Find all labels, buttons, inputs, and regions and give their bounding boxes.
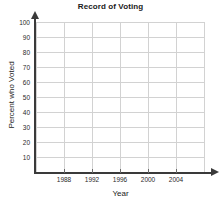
y-tick-label: 70 — [0, 64, 34, 71]
x-axis-arrow-icon — [211, 168, 219, 176]
y-tick-label: 50 — [0, 94, 34, 101]
y-axis-tick-labels: 100 90 80 70 60 50 40 30 20 10 — [0, 0, 34, 205]
gridline-vertical — [64, 22, 65, 172]
y-axis-title: Percent who Voted — [7, 25, 17, 165]
gridline-vertical — [120, 22, 121, 172]
gridline-vertical — [92, 22, 93, 172]
x-tick-mark — [92, 169, 93, 173]
chart-screenshot: Record of Voting 100 90 80 70 60 50 40 3… — [0, 0, 221, 205]
gridline-vertical — [204, 22, 205, 172]
y-tick-label: 60 — [0, 79, 34, 86]
y-tick-label: 80 — [0, 49, 34, 56]
y-tick-label: 10 — [0, 154, 34, 161]
gridline-vertical — [148, 22, 149, 172]
x-tick-mark — [176, 169, 177, 173]
x-tick-mark — [148, 169, 149, 173]
x-tick-label: 2004 — [156, 176, 196, 184]
y-tick-label: 100 — [0, 19, 34, 26]
x-axis-title: Year — [36, 189, 205, 199]
y-tick-label: 20 — [0, 139, 34, 146]
y-tick-label: 40 — [0, 109, 34, 116]
plot-area — [36, 22, 205, 172]
x-axis-line — [34, 172, 214, 174]
gridline-vertical — [176, 22, 177, 172]
x-tick-mark — [120, 169, 121, 173]
y-axis-line — [34, 18, 36, 173]
gridline-vertical — [36, 22, 37, 172]
x-tick-mark — [64, 169, 65, 173]
y-tick-label: 90 — [0, 34, 34, 41]
y-tick-label: 30 — [0, 124, 34, 131]
